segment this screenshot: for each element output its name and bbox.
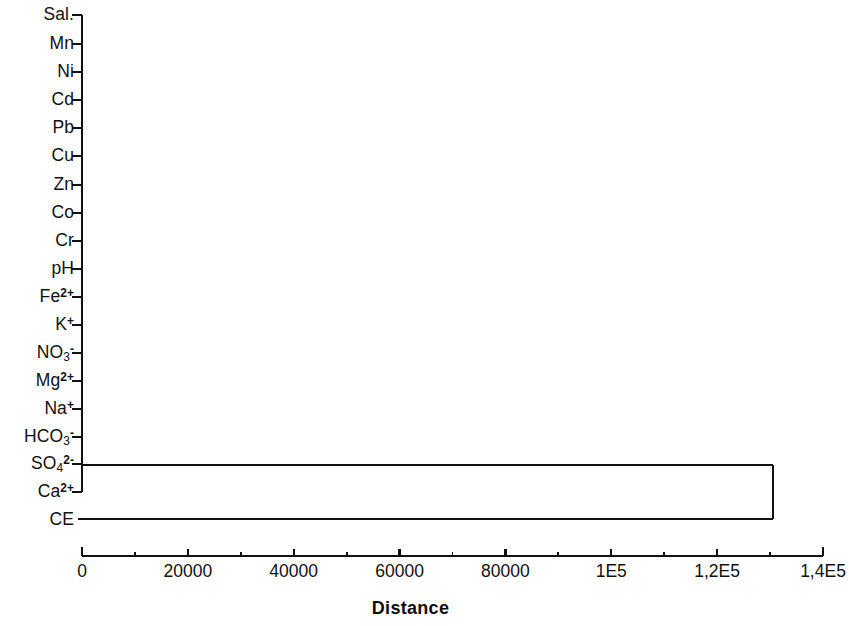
x-axis-title: Distance	[0, 598, 849, 619]
x-axis-tick-label: 0	[77, 563, 87, 581]
dendrogram-plot	[0, 0, 849, 626]
x-axis-tick-label: 1,2E5	[694, 563, 740, 581]
x-axis-tick-label: 40000	[269, 563, 318, 581]
x-axis-tick-label: 60000	[375, 563, 424, 581]
x-axis-tick-label: 20000	[164, 563, 213, 581]
x-axis-tick-label: 80000	[481, 563, 530, 581]
x-axis-tick-label: 1E5	[596, 563, 627, 581]
x-axis-tick-label: 1,4E5	[800, 563, 846, 581]
x-axis-title-text: Distance	[372, 598, 449, 619]
dendrogram-figure: Sal.MnNiCdPbCuZnCoCrpHFe2+K+NO3-Mg2+Na+H…	[0, 0, 849, 626]
